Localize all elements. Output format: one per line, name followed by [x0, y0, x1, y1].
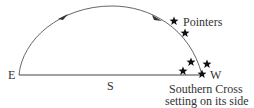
star-icon — [179, 67, 188, 76]
south-label: S — [107, 80, 114, 92]
star-icon — [170, 17, 179, 26]
star-icon — [187, 58, 196, 67]
east-label: E — [8, 69, 15, 81]
star-path-arc — [19, 6, 202, 75]
caption-line-2: setting on its side — [165, 95, 249, 107]
star-icon — [203, 60, 212, 69]
west-label: W — [210, 69, 221, 81]
star-icon — [198, 70, 207, 79]
pointers-label: Pointers — [183, 16, 222, 28]
arrow-icon — [58, 14, 68, 20]
arrow-icon — [152, 15, 162, 21]
